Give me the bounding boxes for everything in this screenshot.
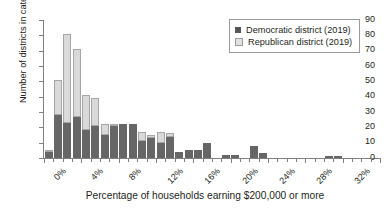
x-tick-mark-minor (165, 158, 166, 162)
bar-segment-democratic (138, 141, 146, 158)
y-tick-label: 90 (365, 14, 375, 24)
x-tick-mark-minor (240, 158, 241, 162)
y-tick-mark (39, 20, 43, 21)
y-tick-label: 40 (365, 90, 375, 100)
x-tick-mark-minor (296, 158, 297, 162)
x-tick-mark-minor (53, 158, 54, 162)
x-tick-mark-minor (287, 158, 288, 162)
bar-segment-democratic (325, 156, 333, 158)
bar (147, 135, 155, 158)
bar-segment-democratic (73, 117, 81, 158)
x-tick-label: 32% (352, 166, 372, 186)
x-tick-label: 20% (240, 166, 260, 186)
bar-segment-democratic (334, 156, 342, 158)
x-tick-mark-minor (100, 158, 101, 162)
bar (203, 143, 211, 158)
y-tick-label: 70 (365, 44, 375, 54)
y-tick-label: 60 (365, 60, 375, 70)
bar-segment-democratic (82, 130, 90, 158)
x-axis-title: Percentage of households earning $200,00… (40, 190, 370, 201)
y-tick-mark (39, 143, 43, 144)
bar (119, 124, 127, 158)
x-tick-mark-minor (109, 158, 110, 162)
y-tick-label: 80 (365, 29, 375, 39)
bar-segment-democratic (91, 126, 99, 158)
x-tick-mark-minor (91, 158, 92, 162)
x-tick-label: 28% (315, 166, 335, 186)
y-axis-line (43, 20, 44, 159)
x-tick-label: 16% (203, 166, 223, 186)
bar (73, 49, 81, 158)
bar-segment-democratic (147, 138, 155, 158)
bar (63, 34, 71, 158)
legend-label-democratic: Democratic district (2019) (246, 25, 351, 35)
y-tick-label: 10 (365, 136, 375, 146)
x-tick-mark-minor (324, 158, 325, 162)
x-tick-mark-minor (315, 158, 316, 162)
x-tick-mark-major (193, 158, 194, 163)
x-tick-mark-minor (212, 158, 213, 162)
x-tick-mark-major (380, 158, 381, 163)
bar-segment-republican (45, 150, 53, 152)
bar-segment-democratic (194, 150, 202, 158)
bar-segment-democratic (119, 124, 127, 158)
legend-swatch-democratic-icon (235, 27, 241, 33)
bar-segment-democratic (231, 155, 239, 158)
x-tick-mark-major (119, 158, 120, 163)
bar-segment-democratic (54, 115, 62, 158)
x-tick-mark-minor (361, 158, 362, 162)
bar-segment-democratic (110, 126, 118, 158)
legend-swatch-republican-icon (235, 38, 243, 46)
x-tick-mark-minor (175, 158, 176, 162)
x-tick-mark-minor (371, 158, 372, 162)
bar-segment-democratic (157, 143, 165, 158)
bar-segment-democratic (45, 152, 53, 158)
x-tick-label: 8% (126, 166, 142, 182)
x-tick-label: 24% (277, 166, 297, 186)
y-tick-label: 30 (365, 106, 375, 116)
bar-segment-republican (166, 133, 174, 136)
bar-segment-democratic (185, 150, 193, 158)
bar-segment-republican (147, 135, 155, 138)
y-tick-mark (39, 112, 43, 113)
bar-segment-republican (138, 132, 146, 141)
chart-legend: Democratic district (2019) Republican di… (229, 19, 360, 53)
bar-segment-democratic (166, 137, 174, 158)
x-tick-mark-minor (249, 158, 250, 162)
bar-segment-republican (54, 80, 62, 115)
legend-item-republican: Republican district (2019) (235, 36, 352, 48)
y-tick-label: 50 (365, 75, 375, 85)
bar-segment-democratic (175, 152, 183, 158)
bar-segment-democratic (203, 143, 211, 158)
bar (54, 80, 62, 158)
bar (166, 133, 174, 158)
bar (138, 132, 146, 158)
bar (325, 156, 333, 158)
bar (157, 132, 165, 158)
x-tick-label: 12% (165, 166, 185, 186)
x-tick-mark-minor (63, 158, 64, 162)
x-tick-mark-major (156, 158, 157, 163)
y-tick-mark (39, 66, 43, 67)
x-tick-mark-minor (128, 158, 129, 162)
bar-segment-republican (157, 132, 165, 143)
bar-segment-republican (101, 124, 109, 135)
x-tick-mark-minor (147, 158, 148, 162)
bar-segment-republican (91, 98, 99, 126)
bar (101, 124, 109, 158)
y-tick-mark (39, 51, 43, 52)
bar (222, 155, 230, 158)
bar (110, 124, 118, 158)
bar-segment-democratic (129, 124, 137, 158)
x-tick-mark-major (343, 158, 344, 163)
x-tick-mark-minor (333, 158, 334, 162)
bar (194, 150, 202, 158)
bar-segment-democratic (63, 123, 71, 158)
bar-segment-democratic (101, 135, 109, 158)
x-tick-mark-minor (137, 158, 138, 162)
bar-segment-republican (82, 95, 90, 130)
bar (129, 124, 137, 158)
chart-container: Number of districts in category 01020304… (0, 0, 388, 213)
x-tick-label: 0% (52, 166, 68, 182)
x-tick-mark-minor (352, 158, 353, 162)
